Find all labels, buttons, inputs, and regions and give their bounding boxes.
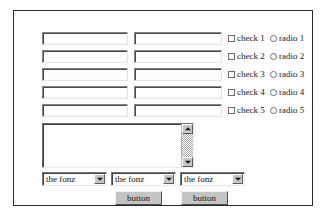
dropdown-1[interactable]: the fonz — [42, 172, 107, 186]
radio-5[interactable]: radio 5 — [270, 104, 304, 117]
option-row-4: check 4 radio 4 — [228, 86, 328, 99]
text-input-1a[interactable] — [42, 32, 128, 45]
dropdown-3[interactable]: the fonz — [180, 172, 245, 186]
radio-2[interactable]: radio 2 — [270, 50, 304, 63]
text-input-2a[interactable] — [42, 50, 128, 63]
radio-label-5: radio 5 — [279, 105, 304, 115]
radio-label-1: radio 1 — [279, 33, 304, 43]
checkbox-3[interactable]: check 3 — [228, 68, 265, 81]
textarea-scrollbar[interactable] — [181, 124, 193, 167]
chevron-down-icon[interactable] — [94, 174, 105, 184]
radio-4[interactable]: radio 4 — [270, 86, 304, 99]
dropdown-2-value: the fonz — [115, 173, 160, 185]
text-input-5b[interactable] — [134, 104, 222, 117]
checkbox-1[interactable]: check 1 — [228, 32, 265, 45]
option-row-5: check 5 radio 5 — [228, 104, 328, 117]
triangle-up-icon — [185, 127, 191, 130]
dropdown-1-value: the fonz — [46, 173, 91, 185]
radio-icon — [270, 89, 277, 96]
page-root: check 1 radio 1 check 2 radio 2 check 3 … — [0, 0, 329, 219]
text-input-1b[interactable] — [134, 32, 222, 45]
checkbox-icon — [228, 89, 235, 96]
option-row-2: check 2 radio 2 — [228, 50, 328, 63]
submit-button-1[interactable]: button — [115, 191, 162, 205]
radio-icon — [270, 71, 277, 78]
text-input-4b[interactable] — [134, 86, 222, 99]
radio-3[interactable]: radio 3 — [270, 68, 304, 81]
radio-icon — [270, 53, 277, 60]
checkbox-label-3: check 3 — [237, 69, 265, 79]
checkbox-icon — [228, 107, 235, 114]
radio-icon — [270, 35, 277, 42]
text-input-2b[interactable] — [134, 50, 222, 63]
option-row-3: check 3 radio 3 — [228, 68, 328, 81]
checkbox-2[interactable]: check 2 — [228, 50, 265, 63]
dropdown-3-value: the fonz — [184, 173, 229, 185]
option-row-1: check 1 radio 1 — [228, 32, 328, 45]
checkbox-icon — [228, 71, 235, 78]
text-input-5a[interactable] — [42, 104, 128, 117]
radio-label-2: radio 2 — [279, 51, 304, 61]
textarea-input[interactable] — [44, 125, 182, 166]
text-input-3b[interactable] — [134, 68, 222, 81]
checkbox-label-2: check 2 — [237, 51, 265, 61]
checkbox-label-1: check 1 — [237, 33, 265, 43]
checkbox-icon — [228, 35, 235, 42]
radio-1[interactable]: radio 1 — [270, 32, 304, 45]
chevron-down-icon[interactable] — [232, 174, 243, 184]
dropdown-2[interactable]: the fonz — [111, 172, 176, 186]
checkbox-icon — [228, 53, 235, 60]
text-input-4a[interactable] — [42, 86, 128, 99]
textarea-container — [42, 123, 194, 168]
submit-button-2[interactable]: button — [181, 191, 228, 205]
radio-label-3: radio 3 — [279, 69, 304, 79]
checkbox-label-4: check 4 — [237, 87, 265, 97]
text-input-3a[interactable] — [42, 68, 128, 81]
triangle-down-icon — [185, 161, 191, 164]
checkbox-4[interactable]: check 4 — [228, 86, 265, 99]
radio-label-4: radio 4 — [279, 87, 304, 97]
checkbox-5[interactable]: check 5 — [228, 104, 265, 117]
checkbox-label-5: check 5 — [237, 105, 265, 115]
scrollbar-down-button[interactable] — [182, 157, 193, 167]
radio-icon — [270, 107, 277, 114]
chevron-down-icon[interactable] — [163, 174, 174, 184]
scrollbar-up-button[interactable] — [182, 124, 193, 134]
form-frame: check 1 radio 1 check 2 radio 2 check 3 … — [13, 10, 313, 206]
